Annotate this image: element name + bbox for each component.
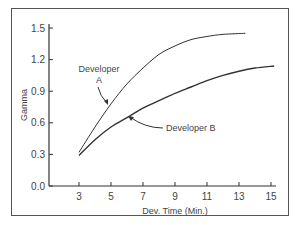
x-tick-label: 15 [265,191,277,202]
x-tick-label: 5 [108,191,114,202]
developer-b-arrow [130,117,163,128]
x-tick-label: 3 [76,191,82,202]
developer-b-curve [79,66,274,156]
y-tick-label: 0.3 [31,149,45,160]
x-axis-label: Dev. Time (Min.) [142,206,207,216]
y-tick-label: 0.0 [31,181,45,192]
x-tick-label: 9 [172,191,178,202]
developer-a-label: Developer [78,64,119,74]
developer-b-label: Developer B [166,123,216,133]
y-tick-label: 0.6 [31,117,45,128]
x-tick-label: 11 [202,191,213,202]
gamma-chart: 0.00.30.60.91.21.53579111315Dev. Time (M… [0,0,298,225]
x-tick-label: 7 [140,191,146,202]
developer-a-label-letter: A [96,75,102,85]
developer-a-curve [79,33,245,152]
y-tick-label: 1.5 [31,23,45,34]
y-tick-label: 0.9 [31,86,45,97]
series [79,33,274,155]
axes: 0.00.30.60.91.21.53579111315Dev. Time (M… [19,23,277,216]
x-tick-label: 13 [233,191,245,202]
y-tick-label: 1.2 [31,54,45,65]
annotations: DeveloperADeveloper B [78,64,215,133]
y-axis-label: Gamma [19,89,29,121]
